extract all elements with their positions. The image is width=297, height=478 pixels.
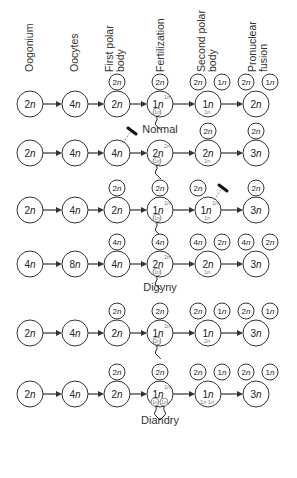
ploidy-label: 4n (69, 205, 81, 216)
ploidy-label: 3n (250, 328, 262, 339)
cell-node: 3n2n1n (238, 303, 278, 346)
polar-body-label: 2n (204, 127, 213, 136)
cell-node: 3n2n (243, 180, 269, 223)
ploidy-label: 4n (69, 148, 81, 159)
arrow-head-icon (141, 261, 147, 267)
polar-body-label: 1n (266, 307, 275, 316)
arrow-head-icon (98, 150, 104, 156)
sperm-icon (155, 345, 161, 359)
arrow-head-icon (56, 150, 62, 156)
ploidy-label: 3n (250, 389, 262, 400)
polar-body-label: 2n (113, 368, 122, 377)
cell-node: 4n (62, 197, 88, 223)
pronucleus-label: 1n (152, 399, 158, 405)
sperm-icon (155, 276, 161, 290)
cell-node: 2n (17, 381, 43, 407)
pathway-row: 2n4n2n2n1n1n1n2n1n1n2n1n2n2n1n (17, 74, 278, 130)
polar-body-label: 2n (113, 307, 122, 316)
subscript-ploidy: 1n (204, 215, 210, 221)
blocked-extrusion-line (123, 131, 131, 143)
arrow-head-icon (98, 391, 104, 397)
polar-body-label: 2n (194, 184, 203, 193)
pronucleus-label: 1n (154, 109, 160, 115)
ploidy-label: 2n (24, 99, 36, 110)
polar-body-label: 4n (156, 238, 165, 247)
ploidy-label: 8n (69, 259, 81, 270)
karyotype-flow-diagram: 2n4n2n2n1n1n1n2n1n1n2n1n2n2n1n2n4n4n2n2n… (0, 0, 297, 478)
polar-body-label: 2n (218, 238, 227, 247)
ploidy-label: 2n (24, 148, 36, 159)
superscript-ploidy: 1n (164, 200, 170, 206)
polar-body-label: 4n (113, 238, 122, 247)
ploidy-label: 1n (200, 205, 212, 216)
cell-node: 2n2n1n4n (147, 234, 173, 290)
polar-body-label: 2n (113, 78, 122, 87)
cell-node: 2n2n (104, 364, 130, 407)
polar-body-label: 2n (156, 307, 165, 316)
ploidy-label: 3n (250, 259, 262, 270)
ploidy-label: 4n (69, 99, 81, 110)
arrow-head-icon (189, 261, 195, 267)
cell-node: 2n (17, 91, 43, 117)
arrow-head-icon (189, 391, 195, 397)
sperm-icon (160, 406, 166, 420)
arrow-head-icon (141, 207, 147, 213)
arrow-head-icon (98, 261, 104, 267)
cell-node: 2n2n (104, 303, 130, 346)
polar-body-label: 2n (252, 127, 261, 136)
ploidy-label: 4n (111, 148, 123, 159)
cell-node: 1n1n1n1n2n (147, 364, 173, 420)
pronucleus-label: 1n (154, 215, 160, 221)
polar-body-label: 2n (266, 238, 275, 247)
ploidy-label: 4n (69, 328, 81, 339)
arrow-head-icon (141, 330, 147, 336)
polar-body-label: 4n (194, 238, 203, 247)
pronucleus-label: 1n (154, 269, 160, 275)
cell-node: 4n (62, 320, 88, 346)
polar-body-label: 2n (113, 184, 122, 193)
cell-node: 2n2n1n (238, 74, 278, 117)
polar-body-label: 2n (194, 307, 203, 316)
polar-body-label: 2n (242, 368, 251, 377)
cell-node: 4n (104, 128, 136, 166)
cell-node: 4n (62, 91, 88, 117)
ploidy-label: 4n (111, 259, 123, 270)
superscript-ploidy: 1n (164, 94, 170, 100)
cell-node: 1n1n1n2n (147, 180, 173, 236)
polar-body-label: 2n (252, 184, 261, 193)
ploidy-label: 2n (202, 148, 214, 159)
arrow-head-icon (237, 261, 243, 267)
ploidy-label: 3n (250, 205, 262, 216)
arrow-head-icon (56, 261, 62, 267)
sperm-icon (154, 406, 160, 420)
cell-node: 1n1n2n1n (190, 74, 230, 117)
cell-node: 4n4n (104, 234, 130, 277)
polar-body-label: 4n (242, 238, 251, 247)
polar-body-label: 1n (266, 368, 275, 377)
arrow-head-icon (56, 391, 62, 397)
subscript-ploidy: 1n (204, 269, 210, 275)
sperm-icon (155, 165, 161, 179)
cell-node: 3n2n1n (238, 364, 278, 407)
pathway-row: 2n4n2n2n1n1n1n2n1n1n1n2n3n2n (17, 180, 269, 236)
superscript-ploidy: 2n (164, 143, 170, 149)
ploidy-label: 1n (202, 328, 214, 339)
pronucleus-label: 1n (161, 399, 167, 405)
cell-node: 2n2n (104, 74, 130, 117)
ploidy-label: 2n (24, 205, 36, 216)
cell-node: 2n2n1n (147, 140, 173, 179)
pronucleus-label: 2n (154, 338, 160, 344)
polar-body-label: 2n (156, 368, 165, 377)
cell-node: 8n (62, 251, 88, 277)
arrow-head-icon (237, 207, 243, 213)
polar-body-label: 2n (156, 184, 165, 193)
cell-node: 3n4n2n (238, 234, 278, 277)
pathway-row: 2n4n2n2n1n1n1n1n2n1n1n 1n2n1n3n2n1n (17, 364, 278, 420)
pathway-row: 4n8n4n4n2n2n1n4n2n1n4n2n3n4n2n (17, 234, 278, 290)
cell-node: 1n1n2n2n (147, 303, 173, 359)
cell-node: 1n2n2n1n (190, 303, 230, 346)
blocked-extrusion-line (214, 188, 222, 200)
subscript-ploidy: 1n 1n (200, 399, 214, 405)
superscript-ploidy: 1n (212, 200, 218, 206)
polar-body-label: 2n (194, 78, 203, 87)
